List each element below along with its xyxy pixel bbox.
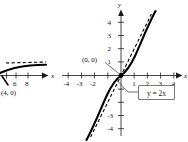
origin-leader-line [105,63,120,75]
right-y-axis-arrow [118,10,124,17]
left-x-axis-arrow [42,73,49,79]
left-dashed-asymptote [6,62,46,63]
right-yticklabel-3: 3 [108,32,112,40]
math-figure: 6 8 x (4, 0) x y [0,0,188,142]
right-xticklabel-neg3: -3 [77,80,83,88]
callout-y-equals-2x: y = 2x [139,86,175,100]
left-ticklabel-6: 6 [13,80,17,88]
right-yticklabel-neg4: -4 [107,125,113,133]
right-x-axis-label: x [183,72,188,80]
callout-label: y = 2x [147,89,166,98]
right-xticklabel-neg4: -4 [64,80,70,88]
left-solid-curve [0,65,46,73]
plot-right: x y -4 -3 -2 1 2 3 4 [62,1,188,140]
right-xticklabel-neg2: -2 [90,80,96,88]
partial-plot-left: 6 8 x (4, 0) [0,62,55,97]
right-yticklabel-2: 2 [108,45,112,53]
right-xticklabel-1: 1 [132,80,136,88]
right-yticklabel-4: 4 [108,19,112,27]
left-pointer-stroke [2,76,8,85]
right-y-axis-label: y [117,1,122,9]
left-x-axis-label: x [50,72,55,80]
figure-canvas: 6 8 x (4, 0) x y [0,0,188,142]
origin-label: (0, 0) [82,56,98,64]
right-x-axis-arrow [176,73,183,79]
left-ticklabel-8: 8 [25,80,29,88]
left-point-label: (4, 0) [1,89,17,97]
right-yticklabel-neg3: -3 [107,112,113,120]
